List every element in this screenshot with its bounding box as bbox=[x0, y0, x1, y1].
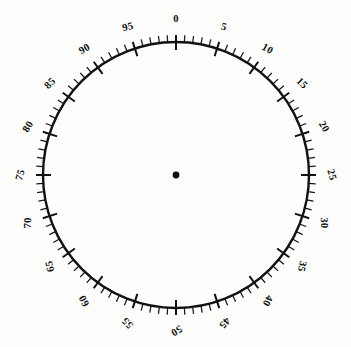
dial-tick-label: 80 bbox=[20, 119, 35, 134]
dial-svg: 05101520253035404550556065707580859095 bbox=[0, 0, 351, 347]
dial-tick-label: 75 bbox=[13, 168, 27, 182]
dial-figure: 05101520253035404550556065707580859095 bbox=[0, 0, 351, 347]
dial-center-dot bbox=[173, 172, 180, 179]
dial-tick-label: 15 bbox=[294, 75, 310, 91]
dial-tick-label: 30 bbox=[319, 217, 330, 228]
dial-tick-label: 45 bbox=[217, 315, 233, 331]
dial-tick-label: 55 bbox=[119, 315, 135, 331]
dial-tick-label: 90 bbox=[77, 41, 92, 56]
dial-tick-label: 10 bbox=[260, 41, 275, 56]
dial-tick-label: 5 bbox=[220, 21, 228, 33]
dial-tick-label: 95 bbox=[121, 20, 135, 33]
dial-tick-label: 50 bbox=[169, 323, 184, 338]
dial-tick-label: 0 bbox=[173, 13, 179, 24]
dial-tick-label: 70 bbox=[22, 217, 33, 228]
dial-tick-label: 25 bbox=[325, 168, 339, 182]
dial-tick-label: 20 bbox=[317, 119, 332, 134]
dial-tick-label: 35 bbox=[296, 260, 309, 273]
dial-tick-label: 40 bbox=[261, 293, 276, 308]
dial-tick-label: 85 bbox=[42, 75, 58, 91]
dial-tick-label: 60 bbox=[76, 293, 91, 308]
dial-tick-label: 65 bbox=[43, 260, 56, 273]
